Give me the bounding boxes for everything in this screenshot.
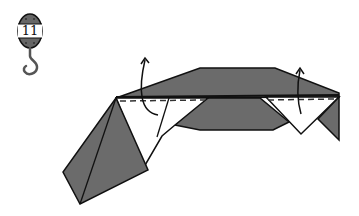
hook-icon	[24, 48, 37, 74]
top-flap	[116, 68, 339, 98]
step-number: 11	[18, 24, 42, 38]
valley-fold-left	[120, 100, 205, 101]
origami-diagram	[0, 0, 359, 216]
